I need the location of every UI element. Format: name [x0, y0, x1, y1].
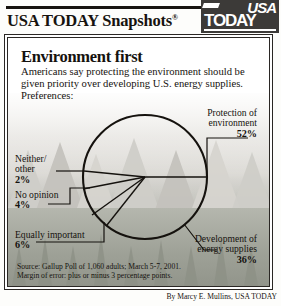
callout-neither-line1: Neither/	[15, 153, 46, 164]
callout-no-opinion-line1: No opinion	[15, 189, 58, 200]
content-panel: Environment first Americans say protecti…	[4, 34, 273, 290]
callout-development-line1: Development of	[195, 233, 257, 244]
credit-line: By Marcy E. Mullins, USA TODAY	[166, 292, 277, 301]
registered-mark: ®	[172, 13, 178, 22]
chart-subtitle: Americans say protecting the environment…	[21, 66, 259, 103]
callout-protection-line2: environment	[209, 117, 258, 128]
callout-development: Development of energy supplies 36%	[149, 234, 257, 265]
chart-title: Environment first	[21, 47, 143, 67]
logo-underline	[204, 29, 276, 31]
callout-protection-line1: Protection of	[207, 107, 257, 118]
callout-equally-important: Equally important 6%	[15, 230, 127, 251]
callout-neither-value: 2%	[15, 174, 30, 185]
leader-line-protection	[207, 138, 248, 177]
callout-neither: Neither/ other 2%	[15, 154, 91, 185]
callout-no-opinion: No opinion 4%	[15, 190, 91, 211]
logo-swoosh-icon	[202, 3, 220, 8]
callout-equally-important-value: 6%	[15, 239, 30, 250]
source-note: Source: Gallup Poll of 1,060 adults; Mar…	[17, 262, 257, 280]
callout-development-line2: energy supplies	[197, 243, 257, 254]
content-panel-inner: Environment first Americans say protecti…	[7, 37, 270, 287]
callout-equally-important-line1: Equally important	[15, 229, 85, 240]
pie-divider-noopinion-neither	[84, 171, 145, 177]
header-rule	[6, 6, 211, 9]
usa-today-snapshot: USA TODAY Snapshots® USA TODAY	[0, 0, 281, 306]
callout-no-opinion-value: 4%	[15, 199, 30, 210]
logo-today-text: TODAY	[204, 11, 256, 31]
masthead-brand: USA TODAY Snapshots	[7, 11, 172, 30]
callout-protection: Protection of environment 52%	[147, 108, 257, 139]
usa-today-logo: USA TODAY	[201, 0, 279, 33]
source-line-2: Margin of error: plus or minus 3 percent…	[17, 271, 172, 280]
callout-neither-line2: other	[15, 163, 35, 174]
source-line-1: Source: Gallup Poll of 1,060 adults; Mar…	[17, 262, 181, 271]
masthead-title: USA TODAY Snapshots®	[7, 11, 213, 33]
callout-protection-value: 52%	[237, 128, 257, 139]
